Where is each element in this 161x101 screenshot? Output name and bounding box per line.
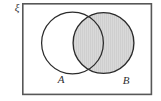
set-b-label: B: [120, 75, 132, 86]
universal-set-label: ξ: [11, 0, 23, 14]
venn-diagram-figure: ξ A B: [0, 0, 161, 101]
venn-diagram-canvas: [0, 0, 161, 101]
set-a-label: A: [55, 74, 67, 85]
